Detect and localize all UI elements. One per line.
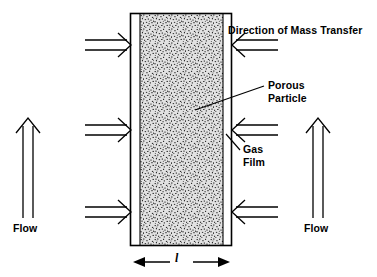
diagram-canvas: Direction of Mass Transfer Porous Partic…: [0, 0, 377, 277]
label-direction-of-mass-transfer: Direction of Mass Transfer: [228, 24, 362, 37]
label-flow-left: Flow: [13, 222, 37, 235]
flow-arrow-right: [306, 118, 330, 218]
mass-transfer-arrows-left: [85, 33, 131, 224]
diagram-vector-layer: [0, 0, 377, 277]
label-thickness-l: l: [175, 252, 178, 265]
gas-film-right: [223, 14, 230, 245]
mass-transfer-arrows-right: [232, 33, 278, 224]
flow-arrow-left: [16, 118, 40, 218]
label-gas-film: Gas Film: [243, 143, 265, 168]
gas-film-left: [134, 14, 141, 245]
label-flow-right: Flow: [304, 222, 328, 235]
label-porous-particle: Porous Particle: [268, 79, 307, 104]
porous-particle-slab: [131, 14, 232, 246]
thickness-dimension-arrow: [133, 257, 230, 267]
